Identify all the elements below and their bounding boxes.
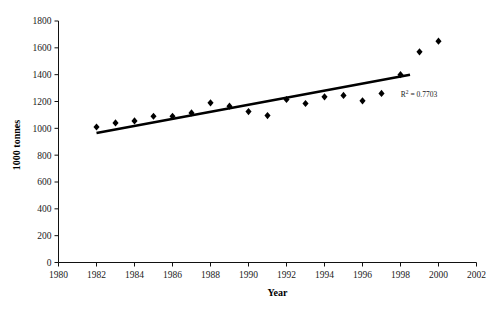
data-point [340, 92, 346, 99]
x-tick-label: 1992 [277, 270, 296, 280]
y-tick-label: 0 [47, 258, 52, 268]
y-tick-label: 1200 [33, 97, 52, 107]
x-tick-label: 1980 [49, 270, 68, 280]
data-point [93, 123, 99, 130]
x-tick-label: 2002 [467, 270, 486, 280]
r-squared-annotation: R2 = 0.7703 [401, 89, 438, 99]
x-axis-tick-group: 1980198219841986198819901992199419961998… [49, 263, 486, 280]
data-point-group [93, 38, 441, 131]
x-tick-label: 1994 [315, 270, 334, 280]
x-tick-label: 1982 [87, 270, 106, 280]
y-tick-label: 400 [37, 204, 52, 214]
x-tick-label: 1984 [125, 270, 144, 280]
y-tick-label: 800 [37, 151, 52, 161]
x-tick-label: 1996 [353, 270, 372, 280]
y-tick-label: 1000 [33, 124, 52, 134]
data-point [321, 93, 327, 100]
data-point [112, 119, 118, 126]
chart-container: 020040060080010001200140016001800 198019… [0, 0, 499, 317]
y-tick-label: 1800 [33, 16, 52, 26]
data-point [150, 113, 156, 120]
y-tick-label: 1600 [33, 43, 52, 53]
data-point [207, 99, 213, 106]
data-point [378, 90, 384, 97]
x-axis-title: Year [268, 287, 289, 298]
y-axis-tick-group: 020040060080010001200140016001800 [33, 16, 59, 268]
x-tick-label: 1986 [163, 270, 182, 280]
data-point [416, 48, 422, 55]
data-point [435, 38, 441, 45]
x-tick-label: 1988 [201, 270, 220, 280]
y-tick-label: 600 [37, 177, 52, 187]
x-tick-label: 1990 [239, 270, 258, 280]
y-tick-label: 200 [37, 231, 52, 241]
data-point [359, 97, 365, 104]
data-point [302, 100, 308, 107]
data-point [131, 117, 137, 124]
data-point [245, 108, 251, 115]
scatter-plot-svg: 020040060080010001200140016001800 198019… [0, 0, 499, 317]
y-tick-label: 1400 [33, 70, 52, 80]
data-point [264, 112, 270, 119]
y-axis-title: 1000 tonnes [11, 120, 22, 170]
x-tick-label: 1998 [391, 270, 410, 280]
x-tick-label: 2000 [429, 270, 448, 280]
